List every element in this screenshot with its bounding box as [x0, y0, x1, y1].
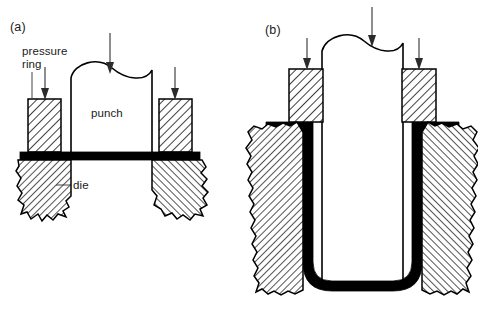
pressure-ring-right-b	[402, 69, 436, 122]
pressure-ring-left-b	[289, 69, 323, 122]
figure-canvas: (a) punch pressure ring	[0, 0, 478, 312]
panel-b-label: (b)	[265, 23, 281, 37]
sheet-blank-a	[20, 152, 200, 160]
die-left-a	[16, 160, 71, 221]
pressure-ring-label-line1: pressure	[22, 45, 68, 57]
die-label-a: die	[73, 179, 89, 191]
pressure-ring-right-a	[159, 99, 192, 152]
pressure-ring-label-line2: ring	[22, 58, 42, 70]
punch-label-a: punch	[91, 107, 123, 119]
pressure-ring-left-a	[28, 99, 61, 152]
panel-a-label: (a)	[10, 20, 26, 34]
deep-drawing-figure: (a) punch pressure ring	[0, 0, 478, 312]
